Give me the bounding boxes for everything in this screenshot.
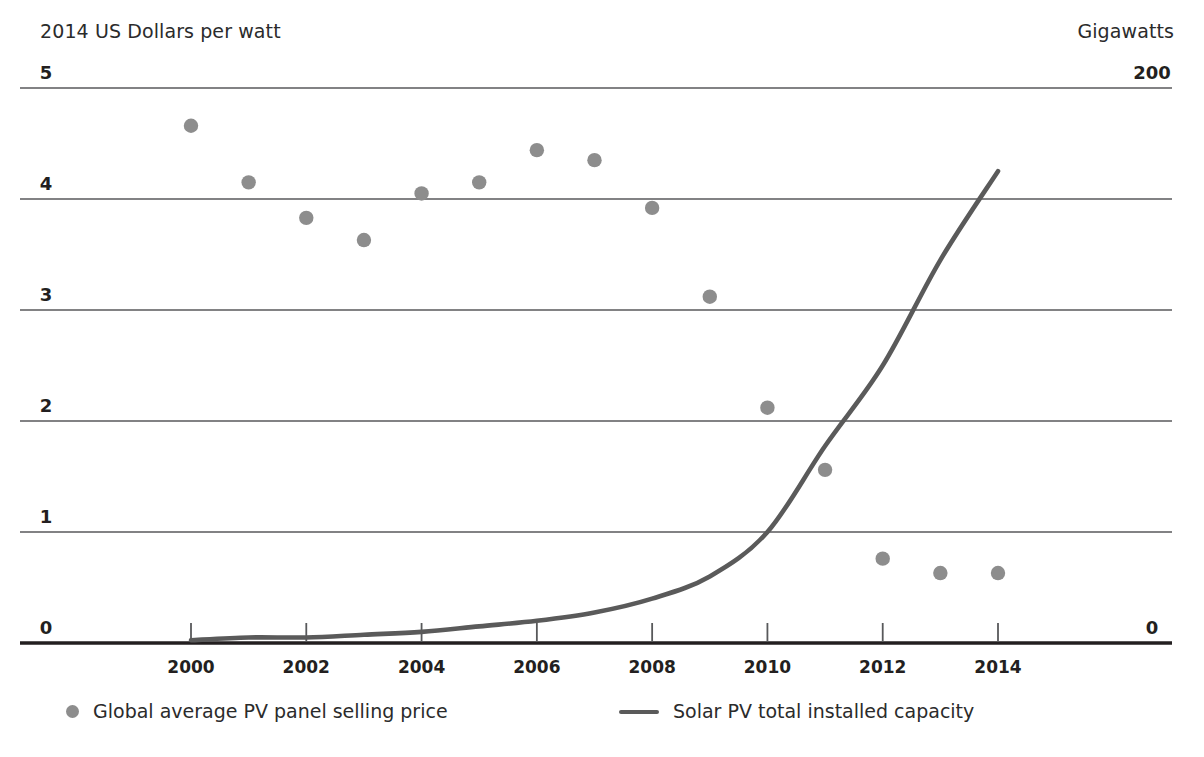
price-data-point <box>472 175 486 189</box>
x-tick-label: 2000 <box>167 657 214 677</box>
x-tick-label: 2008 <box>628 657 675 677</box>
capacity-line <box>191 171 998 640</box>
price-data-point <box>530 143 544 157</box>
price-data-point <box>991 566 1005 580</box>
y-tick-label: 0 <box>40 617 53 638</box>
y-tick-label: 3 <box>40 284 53 305</box>
price-data-point <box>241 175 255 189</box>
legend-line-icon <box>619 710 659 714</box>
price-data-point <box>933 566 947 580</box>
x-tick-label: 2012 <box>859 657 906 677</box>
price-scatter-series <box>184 119 1005 581</box>
x-tick-label: 2006 <box>513 657 560 677</box>
legend-item-price[interactable]: Global average PV panel selling price <box>66 702 448 721</box>
price-data-point <box>703 289 717 303</box>
y-tick-label: 5 <box>40 62 53 83</box>
y-tick-label: 4 <box>40 173 53 194</box>
y-axis-tick-labels: 012345 <box>40 62 53 638</box>
price-data-point <box>818 463 832 477</box>
price-data-point <box>184 119 198 133</box>
legend-dot-icon <box>66 705 79 718</box>
y-tick-label: 1 <box>40 506 53 527</box>
price-data-point <box>587 153 601 167</box>
x-tick-label: 2004 <box>398 657 445 677</box>
y2-tick-label: 200 <box>1133 62 1171 83</box>
price-data-point <box>876 551 890 565</box>
x-tick-label: 2010 <box>744 657 791 677</box>
price-data-point <box>357 233 371 247</box>
capacity-line-series <box>191 171 998 640</box>
price-data-point <box>299 211 313 225</box>
x-axis-tick-labels: 20002002200420062008201020122014 <box>167 657 1021 677</box>
legend-label-capacity: Solar PV total installed capacity <box>673 702 974 721</box>
x-tick-label: 2014 <box>974 657 1021 677</box>
y2-tick-label: 0 <box>1146 617 1159 638</box>
legend-item-capacity[interactable]: Solar PV total installed capacity <box>619 702 974 721</box>
x-tick-label: 2002 <box>283 657 330 677</box>
chart-container: 2014 US Dollars per watt Gigawatts 01234… <box>0 0 1204 757</box>
plot-area: 012345 0200 2000200220042006200820102012… <box>0 0 1204 757</box>
legend-label-price: Global average PV panel selling price <box>93 702 448 721</box>
price-data-point <box>414 186 428 200</box>
y2-axis-tick-labels: 0200 <box>1133 62 1171 638</box>
price-data-point <box>645 201 659 215</box>
price-data-point <box>760 400 774 414</box>
y-tick-label: 2 <box>40 395 53 416</box>
